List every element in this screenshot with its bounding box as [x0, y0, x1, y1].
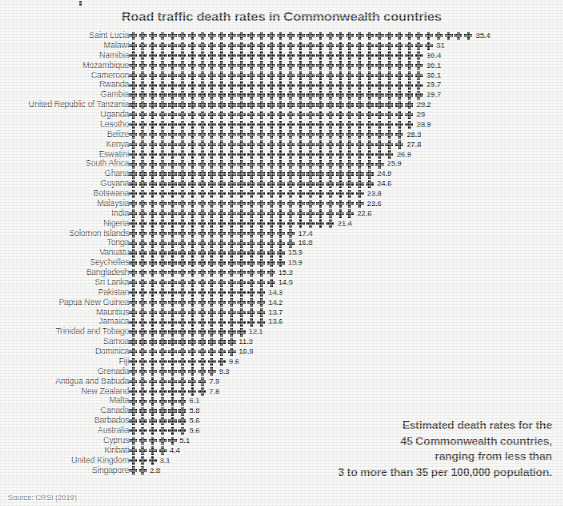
cross-pictogram-icon [178, 338, 186, 347]
cross-pictogram-icon [277, 160, 285, 169]
row-value-label: 30.1 [426, 61, 440, 71]
cross-pictogram-icon [208, 249, 216, 258]
cross-pictogram-icon [267, 279, 275, 288]
cross-pictogram-icon [297, 121, 305, 130]
cross-pictogram-icon [237, 249, 245, 258]
cross-pictogram-icon [326, 81, 334, 90]
cross-pictogram-icon [188, 42, 196, 51]
cross-pictogram-icon [267, 219, 275, 228]
cross-pictogram-icon [385, 81, 393, 90]
cross-pictogram-icon [198, 279, 206, 288]
cross-pictogram-icon [336, 121, 344, 130]
cross-pictogram-icon [159, 417, 167, 426]
cross-pictogram-icon [316, 81, 324, 90]
cross-pictogram-icon [178, 111, 186, 120]
cross-pictogram-icon [346, 111, 354, 120]
row-pictogram-bar [129, 456, 159, 466]
cross-pictogram-icon [208, 150, 216, 159]
cross-pictogram-icon [267, 209, 275, 218]
row-value-label: 4.4 [170, 446, 180, 456]
cross-pictogram-icon [149, 358, 157, 367]
row-value-label: 13.6 [268, 317, 282, 327]
cross-pictogram-icon [237, 170, 245, 179]
cross-pictogram-icon [277, 150, 285, 159]
cross-pictogram-icon [159, 427, 167, 436]
cross-pictogram-icon [168, 170, 176, 179]
cross-pictogram-icon [346, 61, 354, 70]
row-label: Singapore [0, 466, 129, 476]
cross-pictogram-icon [228, 229, 236, 238]
cross-pictogram-icon [178, 81, 186, 90]
cross-pictogram-icon [385, 61, 393, 70]
cross-pictogram-icon [198, 298, 206, 307]
cross-pictogram-icon [129, 269, 137, 278]
row-pictogram-bar [129, 229, 297, 239]
cross-pictogram-icon [198, 61, 206, 70]
cross-pictogram-icon [356, 61, 364, 70]
chart-row: Solomon Islands17.4 [0, 229, 563, 239]
cross-pictogram-icon [287, 219, 295, 228]
cross-pictogram-icon [178, 259, 186, 268]
cross-pictogram-icon [385, 130, 393, 139]
cross-pictogram-icon [247, 160, 255, 169]
chart-row: Bangladesh15.3 [0, 268, 563, 278]
cross-pictogram-icon [188, 288, 196, 297]
row-value-label: 2.8 [150, 466, 160, 476]
cross-pictogram-icon [159, 140, 167, 149]
cross-pictogram-icon [168, 229, 176, 238]
cross-pictogram-icon [247, 249, 255, 258]
cross-pictogram-icon [257, 81, 265, 90]
cross-pictogram-icon [208, 111, 216, 120]
cross-pictogram-icon [159, 229, 167, 238]
cross-pictogram-icon [375, 150, 383, 159]
row-value-label: 30.4 [426, 51, 440, 61]
cross-pictogram-icon [188, 71, 196, 80]
row-value-label: 14.3 [268, 288, 282, 298]
cross-pictogram-icon [257, 318, 265, 327]
cross-pictogram-icon [208, 318, 216, 327]
cross-pictogram-icon [129, 328, 137, 337]
cross-pictogram-icon [198, 269, 206, 278]
cross-pictogram-icon [247, 298, 255, 307]
cross-pictogram-icon [168, 259, 176, 268]
cross-pictogram-icon [168, 180, 176, 189]
cross-pictogram-icon [237, 150, 245, 159]
cross-pictogram-icon [129, 437, 137, 446]
cross-pictogram-icon [149, 180, 157, 189]
cross-pictogram-icon [198, 308, 206, 317]
row-value-label: 25.9 [387, 159, 401, 169]
cross-pictogram-icon [208, 180, 216, 189]
cross-pictogram-icon [375, 32, 383, 41]
cross-pictogram-icon [159, 160, 167, 169]
cross-pictogram-icon [375, 130, 383, 139]
cross-pictogram-icon [257, 140, 265, 149]
cross-pictogram-icon [326, 61, 334, 70]
cross-pictogram-icon [346, 101, 354, 110]
cross-pictogram-icon [129, 417, 137, 426]
cross-pictogram-icon [159, 61, 167, 70]
cross-pictogram-icon [129, 338, 137, 347]
cross-pictogram-icon [287, 180, 295, 189]
cross-pictogram-icon [257, 209, 265, 218]
row-value-label: 5.1 [179, 436, 189, 446]
cross-pictogram-icon [375, 111, 383, 120]
cross-pictogram-icon [198, 348, 206, 357]
chart-row: United Republic of Tanzania29.2 [0, 100, 563, 110]
cross-pictogram-icon [139, 111, 147, 120]
chart-row: India22.6 [0, 209, 563, 219]
cross-pictogram-icon [346, 42, 354, 51]
cross-pictogram-icon [139, 358, 147, 367]
cross-pictogram-icon [129, 209, 137, 218]
cross-pictogram-icon [336, 71, 344, 80]
cross-pictogram-icon [188, 200, 196, 209]
cross-pictogram-icon [247, 180, 255, 189]
cross-pictogram-icon [306, 219, 314, 228]
cross-pictogram-icon [218, 269, 226, 278]
cross-pictogram-icon [306, 111, 314, 120]
cross-pictogram-icon [287, 140, 295, 149]
cross-pictogram-icon [139, 437, 147, 446]
cross-pictogram-icon [159, 209, 167, 218]
cross-pictogram-icon [237, 91, 245, 100]
cross-pictogram-icon [366, 140, 374, 149]
cross-pictogram-icon [228, 61, 236, 70]
